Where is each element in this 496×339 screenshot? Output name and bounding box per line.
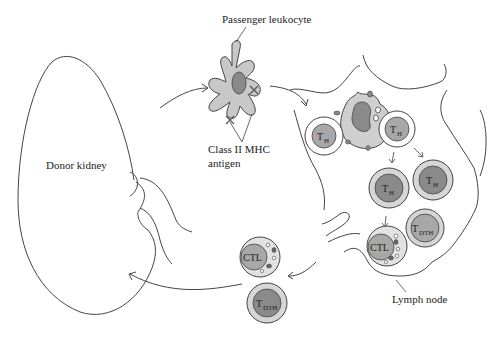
svg-text:T: T — [382, 183, 388, 194]
passenger-leukocyte — [209, 41, 261, 124]
th-cell-right: T H — [379, 111, 415, 147]
passenger-leukocyte-label: Passenger leukocyte — [222, 13, 312, 26]
arrow-kidney-to-leukocyte — [160, 88, 207, 108]
svg-text:H: H — [433, 181, 438, 189]
svg-text:T: T — [256, 298, 262, 309]
tdth-cell-circulating: T DTH — [247, 283, 287, 323]
lymph-node-leader-line — [396, 280, 406, 292]
donor-kidney-label: Donor kidney — [46, 159, 107, 172]
antigen-label: antigen — [208, 157, 240, 170]
th-cell-proliferated-1: T H — [369, 168, 409, 208]
svg-text:DTH: DTH — [419, 229, 433, 237]
arrow-leukocyte-to-node — [270, 86, 306, 104]
svg-text:CTL: CTL — [370, 242, 389, 253]
svg-text:T: T — [390, 124, 396, 135]
svg-text:H: H — [324, 137, 329, 145]
arrow-to-donor-kidney — [130, 274, 242, 290]
ctl-cell-node: CTL — [367, 226, 407, 266]
svg-text:H: H — [397, 130, 402, 138]
svg-text:CTL: CTL — [243, 252, 262, 263]
arrow-node-to-circulation — [289, 262, 316, 276]
ctl-cell-circulating: CTL — [240, 237, 280, 277]
class-ii-mhc-label: Class II MHC — [208, 143, 270, 156]
svg-text:T: T — [426, 175, 432, 186]
renal-vessel-2 — [140, 208, 172, 264]
th-cell-left: T H — [305, 117, 343, 155]
renal-vessel-1 — [140, 178, 192, 232]
lymph-node-label: Lymph node — [392, 293, 447, 306]
th-cell-proliferated-2: T H — [413, 160, 453, 200]
svg-text:T: T — [317, 131, 323, 142]
svg-text:H: H — [389, 189, 394, 197]
leukocyte-leader-line — [236, 27, 246, 42]
svg-text:T: T — [412, 223, 418, 234]
donor-kidney-outline — [18, 56, 155, 314]
tdth-cell-node: T DTH — [406, 209, 444, 247]
svg-text:DTH: DTH — [263, 304, 277, 312]
